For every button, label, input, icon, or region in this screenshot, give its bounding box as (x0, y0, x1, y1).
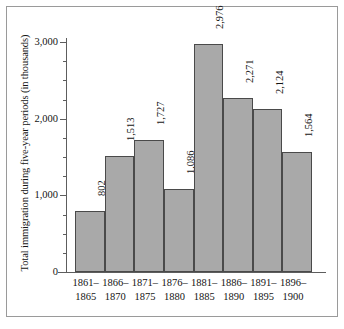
bar (194, 44, 224, 272)
x-axis-tick-labels: 1861–18651866–18701871–18751876–18801881… (75, 276, 312, 306)
y-axis-minor-tick (63, 61, 67, 62)
y-axis-line (66, 38, 67, 273)
bar-slot: 1,564 (282, 42, 312, 272)
bar (164, 189, 194, 272)
bar (134, 140, 164, 272)
y-axis-minor-tick (63, 253, 67, 254)
y-axis-tick-label: 2,000 (14, 113, 58, 124)
y-axis-minor-tick (63, 80, 67, 81)
bar-slot: 1,513 (105, 42, 135, 272)
y-axis-tick-label: 3,000 (14, 36, 58, 47)
y-axis-minor-tick (63, 215, 67, 216)
bar (75, 211, 105, 272)
bar (253, 109, 283, 272)
bar-value-label: 2,976 (214, 5, 225, 29)
bar (282, 152, 312, 272)
bar-series: 8021,5131,7271,0862,9762,2712,1241,564 (75, 42, 312, 272)
y-axis-minor-tick (63, 157, 67, 158)
bar-slot: 2,271 (223, 42, 253, 272)
bar-slot: 1,086 (164, 42, 194, 272)
y-axis-major-tick (60, 272, 67, 273)
bar-slot: 1,727 (134, 42, 164, 272)
y-axis-minor-tick (63, 100, 67, 101)
bar-slot: 2,124 (253, 42, 283, 272)
y-axis-tick-label: 0 (14, 266, 58, 277)
bar-slot: 802 (75, 42, 105, 272)
x-axis-line (58, 272, 326, 273)
y-axis-minor-tick (63, 234, 67, 235)
bar-slot: 2,976 (194, 42, 224, 272)
y-axis-major-tick (60, 119, 67, 120)
y-axis-tick-label: 1,000 (14, 189, 58, 200)
bar (223, 98, 253, 272)
bar (105, 156, 135, 272)
y-axis-minor-tick (63, 176, 67, 177)
y-axis-minor-tick (63, 138, 67, 139)
bar-value-label: 1,564 (303, 113, 314, 137)
y-axis-title: Total immigration during five-year perio… (18, 28, 32, 278)
y-axis-major-tick (60, 42, 67, 43)
x-axis-tick-label: 1896–1900 (274, 276, 312, 303)
immigration-bar-chart-figure: Total immigration during five-year perio… (0, 0, 344, 329)
y-axis-major-tick (60, 195, 67, 196)
